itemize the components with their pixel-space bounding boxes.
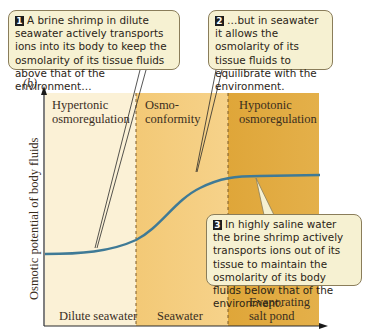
region-label-hypotonic: Hypotonic osmoregulation [239, 98, 317, 126]
callout-3: 3In highly saline water the brine shrimp… [206, 214, 362, 286]
region-label-hypotonic-line1: Hypotonic [239, 98, 317, 112]
callout-2: 2…but in seawater it allows the osmolari… [208, 10, 333, 70]
region-label-conformity: Osmo- conformity [145, 98, 201, 126]
callout-1: 1A brine shrimp in dilute seawater activ… [8, 10, 180, 70]
pointer-1-left [95, 70, 140, 248]
pointer-1-right [97, 70, 146, 248]
region-label-conformity-line1: Osmo- [145, 98, 201, 112]
y-axis-title: Osmotic potential of body fluids [27, 138, 42, 300]
bottom-label-dilute: Dilute seawater [59, 309, 137, 323]
bottom-label-seawater: Seawater [157, 309, 203, 323]
callout-1-number-badge: 1 [15, 16, 24, 26]
region-label-conformity-line2: conformity [145, 112, 201, 126]
region-label-hypotonic-line2: osmoregulation [239, 112, 317, 126]
callout-3-number-badge: 3 [213, 220, 222, 230]
pointer-3 [256, 178, 274, 215]
x-axis-arrow-icon [319, 323, 328, 329]
region-label-hypertonic-line2: osmoregulation [52, 112, 130, 126]
region-label-hypertonic-line1: Hypertonic [52, 98, 130, 112]
callout-3-text: In highly saline water the brine shrimp … [213, 218, 343, 309]
callout-2-number-badge: 2 [215, 16, 224, 26]
bottom-label-evaporating-line2: salt pond [249, 309, 310, 323]
region-label-hypertonic: Hypertonic osmoregulation [52, 98, 130, 126]
